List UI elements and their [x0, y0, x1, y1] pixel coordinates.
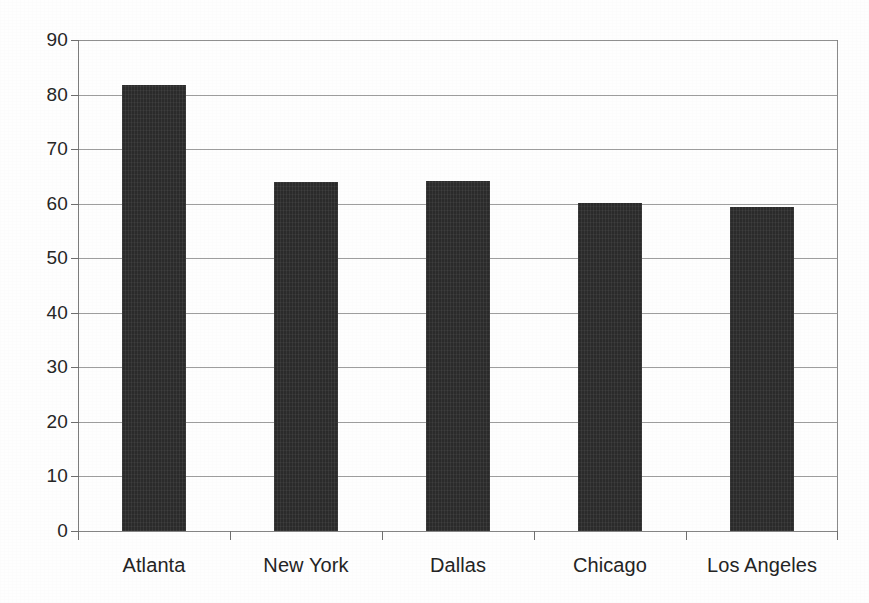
y-tick-10 — [71, 476, 79, 477]
gridline-70 — [78, 149, 838, 150]
bar-chicago — [578, 203, 642, 531]
y-tick-20 — [71, 422, 79, 423]
y-tick-30 — [71, 367, 79, 368]
x-axis-label-chicago: Chicago — [534, 555, 686, 575]
x-axis-label-atlanta: Atlanta — [78, 555, 230, 575]
x-axis-label-dallas: Dallas — [382, 555, 534, 575]
bar-chart-figure: 0102030405060708090 AtlantaNew YorkDalla… — [0, 0, 869, 603]
y-axis-label-70: 70 — [20, 139, 68, 158]
y-tick-50 — [71, 258, 79, 259]
y-tick-70 — [71, 149, 79, 150]
y-tick-40 — [71, 313, 79, 314]
y-axis-label-90: 90 — [20, 30, 68, 49]
y-axis-label-60: 60 — [20, 194, 68, 213]
x-tick-3 — [534, 531, 535, 540]
y-axis-label-30: 30 — [20, 357, 68, 376]
bar-new-york — [274, 182, 338, 531]
x-axis-label-new-york: New York — [230, 555, 382, 575]
x-axis: AtlantaNew YorkDallasChicagoLos Angeles — [78, 531, 838, 603]
y-axis-label-80: 80 — [20, 85, 68, 104]
x-tick-1 — [230, 531, 231, 540]
gridline-90 — [78, 40, 838, 41]
y-axis-label-20: 20 — [20, 412, 68, 431]
y-tick-80 — [71, 95, 79, 96]
y-axis-label-40: 40 — [20, 303, 68, 322]
x-tick-2 — [382, 531, 383, 540]
y-tick-90 — [71, 40, 79, 41]
bar-los-angeles — [730, 207, 794, 531]
right-axis-spine — [837, 40, 838, 531]
y-axis-label-0: 0 — [20, 521, 68, 540]
y-axis-label-50: 50 — [20, 248, 68, 267]
y-tick-60 — [71, 204, 79, 205]
y-axis-label-10: 10 — [20, 466, 68, 485]
gridline-80 — [78, 95, 838, 96]
plot-area — [78, 40, 838, 531]
x-tick-5 — [837, 531, 838, 540]
bar-dallas — [426, 181, 490, 531]
bar-atlanta — [122, 85, 186, 531]
x-tick-0 — [78, 531, 79, 540]
x-axis-label-los-angeles: Los Angeles — [686, 555, 838, 575]
x-tick-4 — [686, 531, 687, 540]
y-axis-spine — [78, 40, 79, 531]
